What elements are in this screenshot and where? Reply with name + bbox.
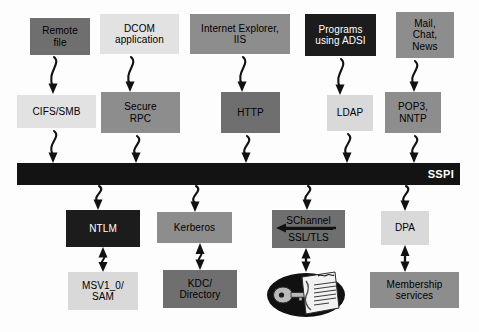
sspi-bar: SSPI <box>17 163 460 185</box>
arrow-adsi-to-ldap <box>336 59 345 95</box>
sspi-architecture-diagram: Remote file DCOM application Internet Ex… <box>0 0 479 332</box>
schannel-divider <box>284 228 334 230</box>
node-internet-explorer-iis: Internet Explorer, IIS <box>190 14 290 54</box>
arrow-http-to-sspi <box>242 136 251 163</box>
node-kerberos: Kerberos <box>157 212 232 243</box>
schannel-label-bottom: SSL/TLS <box>288 232 329 243</box>
arrow-secure-rpc-to-sspi <box>132 136 141 163</box>
arrow-pop3-nntp-to-sspi <box>410 136 419 163</box>
node-secure-rpc: Secure RPC <box>101 92 180 133</box>
node-programs-using-adsi: Programs using ADSI <box>305 14 376 56</box>
node-schannel: SChannel SSL/TLS <box>272 210 345 248</box>
arrow-sspi-to-kerberos <box>191 186 200 212</box>
arrow-dpa-to-membership-services <box>401 245 410 272</box>
node-mail-chat-news: Mail, Chat, News <box>396 12 454 58</box>
node-dpa: DPA <box>381 211 429 245</box>
arrow-ldap-to-sspi <box>343 134 352 163</box>
arrow-remote-file-to-cifs-smb <box>49 57 58 94</box>
node-membership-services: Membership services <box>370 272 459 308</box>
node-http: HTTP <box>221 92 280 133</box>
arrow-mail-chat-news-to-pop3-nntp <box>410 61 419 92</box>
arrow-sspi-to-ntlm <box>94 186 103 210</box>
node-dcom-application: DCOM application <box>100 14 179 54</box>
node-remote-file: Remote file <box>30 18 90 55</box>
node-ntlm: NTLM <box>66 210 140 247</box>
key-and-certificate-icon <box>266 268 346 322</box>
sspi-bar-label: SSPI <box>428 168 460 180</box>
node-kdc-directory: KDC/ Directory <box>163 270 237 308</box>
arrow-kerberos-to-kdc-directory <box>196 243 205 270</box>
schannel-label-top: SChannel <box>286 215 331 226</box>
node-msv1-0-sam: MSV1_0/ SAM <box>68 272 138 310</box>
arrow-sspi-to-schannel <box>303 186 312 210</box>
arrow-dcom-to-secure-rpc <box>126 57 135 92</box>
arrow-ie-iis-to-http <box>238 57 247 92</box>
node-ldap: LDAP <box>327 95 373 131</box>
node-cifs-smb: CIFS/SMB <box>17 95 96 128</box>
node-pop3-nntp: POP3, NNTP <box>385 92 441 133</box>
arrow-cifs-smb-to-sspi <box>49 131 58 163</box>
arrow-ntlm-to-msv1-0-sam <box>99 247 108 272</box>
arrow-sspi-to-dpa <box>401 186 410 211</box>
